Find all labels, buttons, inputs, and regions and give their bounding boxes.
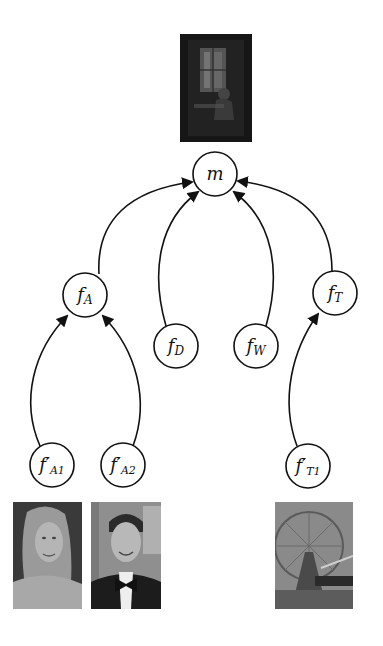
node-fA1-prime: f′A1: [30, 443, 74, 487]
node-fT1-prime: f′T1: [286, 444, 330, 488]
node-fA: fA: [63, 273, 107, 317]
edge-fT1p-to-fT: [289, 314, 318, 446]
node-fA2-prime: f′A2: [101, 443, 145, 487]
node-fT: fT: [313, 271, 357, 315]
svg-text:m: m: [206, 163, 223, 184]
node-fD: fD: [154, 324, 198, 368]
edge-fA2p-to-fA: [103, 316, 140, 446]
edge-fW-to-m: [234, 192, 273, 326]
node-fW: fW: [234, 324, 278, 368]
edge-fD-to-m: [159, 192, 198, 326]
node-m: m: [193, 152, 237, 196]
edge-fA-to-m: [99, 182, 192, 274]
edge-fA1p-to-fA: [31, 316, 67, 446]
graph-diagram: m fA fD fW fT f′A1 f′A2: [0, 0, 383, 646]
edge-fT-to-m: [238, 181, 332, 271]
